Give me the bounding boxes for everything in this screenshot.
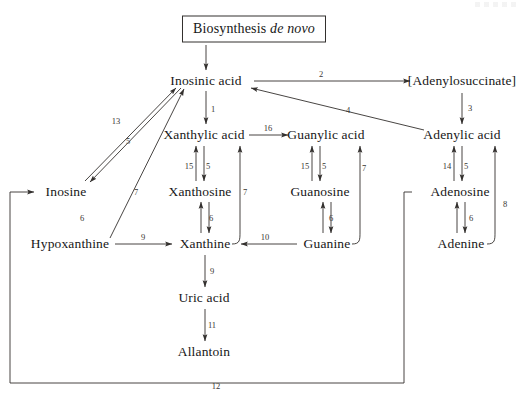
arrow-xanthine-to-xanthylic-acid	[232, 146, 240, 244]
step-label-8: 8	[503, 200, 507, 209]
node-guanosine: Guanosine	[290, 185, 349, 199]
node-label-de-novo: de novo	[270, 21, 315, 36]
step-label-5-inosine: 5	[126, 137, 130, 146]
node-adenylic-acid: Adenylic acid	[423, 128, 500, 142]
node-xanthosine: Xanthosine	[169, 185, 232, 199]
step-label-13: 13	[112, 117, 121, 126]
pathway-arrow-layer	[0, 0, 523, 406]
step-label-5-adenosine: 5	[464, 162, 468, 171]
step-label-6-inosine: 6	[80, 214, 84, 223]
step-label-7-xanthine: 7	[243, 188, 247, 197]
node-adenylosuccinate: [Adenylosuccinate]	[408, 74, 516, 88]
step-label-9-hypoxanthine: 9	[141, 233, 145, 242]
arrow-guanine-to-guanylic-acid	[352, 146, 360, 244]
step-label-14: 14	[443, 162, 452, 171]
node-hypoxanthine: Hypoxanthine	[31, 237, 109, 251]
node-xanthylic-acid: Xanthylic acid	[163, 128, 244, 142]
pathway-diagram-page: Biosynthesis de novo Inosinic acid [Aden…	[0, 0, 523, 406]
node-guanylic-acid: Guanylic acid	[287, 128, 364, 142]
step-label-11: 11	[208, 321, 216, 330]
step-label-7-hypoxanthine: 7	[134, 188, 138, 197]
step-label-12: 12	[212, 382, 221, 391]
step-label-10: 10	[261, 233, 270, 242]
step-label-6-guanosine: 6	[329, 214, 333, 223]
step-label-1: 1	[211, 105, 215, 114]
node-allantoin: Allantoin	[178, 345, 230, 359]
step-label-7-guanine: 7	[362, 164, 366, 173]
node-adenine: Adenine	[438, 237, 485, 251]
step-label-3: 3	[468, 104, 472, 113]
node-uric-acid: Uric acid	[178, 291, 229, 305]
node-inosine: Inosine	[46, 185, 87, 199]
step-label-5-xanthosine: 5	[206, 162, 210, 171]
step-label-16: 16	[264, 124, 273, 133]
node-adenosine: Adenosine	[430, 185, 489, 199]
step-label-4: 4	[346, 106, 350, 115]
step-label-15-guanosine: 15	[301, 162, 310, 171]
arrow-inosine-to-inosinic-acid	[85, 88, 176, 181]
node-biosynthesis-de-novo: Biosynthesis de novo	[182, 16, 326, 43]
node-inosinic-acid: Inosinic acid	[170, 74, 241, 88]
node-label-biosynthesis: Biosynthesis	[193, 21, 266, 36]
step-label-9-uric-acid: 9	[210, 267, 214, 276]
step-label-5-guanosine: 5	[322, 162, 326, 171]
step-label-2: 2	[319, 70, 323, 79]
step-label-6-xanthosine: 6	[209, 214, 213, 223]
node-guanine: Guanine	[304, 237, 351, 251]
arrow-adenylic-acid-to-inosinic-acid	[251, 88, 424, 130]
node-xanthine: Xanthine	[180, 237, 231, 251]
step-label-15-xanthosine: 15	[185, 162, 194, 171]
step-label-6-adenosine: 6	[469, 214, 473, 223]
arrow-hypoxanthine-to-inosinic-acid	[110, 89, 184, 238]
